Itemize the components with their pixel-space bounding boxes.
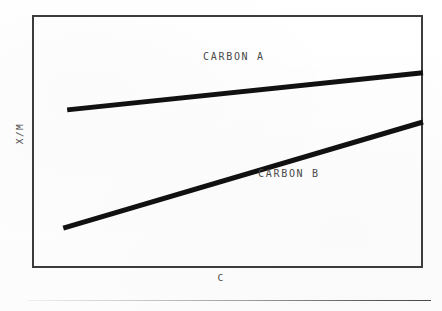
series-label-carbon-b: CARBON B — [258, 168, 320, 179]
series-line-carbon-a — [67, 73, 423, 110]
series-line-carbon-b — [63, 122, 423, 228]
chart-plot-area — [0, 0, 442, 311]
bottom-divider-rule — [28, 300, 431, 301]
y-axis-label: X/M — [14, 111, 25, 157]
series-label-carbon-a: CARBON A — [203, 51, 265, 62]
adsorption-isotherm-figure: CARBON A CARBON B X/M C — [0, 0, 442, 311]
x-axis-label: C — [0, 272, 442, 283]
